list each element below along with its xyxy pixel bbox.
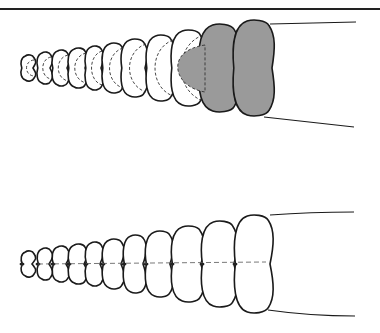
rattle-segment <box>121 39 147 97</box>
tail-outline-lower <box>264 117 354 127</box>
tail-outline-lower <box>268 310 355 316</box>
tail-outline-upper <box>270 22 356 24</box>
rattle-segment <box>21 55 36 81</box>
rattle-segment <box>233 20 274 116</box>
segment-notch <box>20 262 25 265</box>
rattle-segment <box>123 235 146 293</box>
rattle-segment <box>146 35 174 101</box>
rattle-segment <box>68 48 88 88</box>
rattle-illustration <box>0 0 380 333</box>
segment-notch <box>84 262 89 265</box>
rattle-segment <box>145 231 173 297</box>
tail-outline-upper <box>270 212 354 215</box>
rattle-segment <box>234 215 273 313</box>
segment-notch <box>233 262 238 265</box>
rattle-segment <box>201 221 237 307</box>
segment-notch <box>101 262 106 265</box>
rattle-segment <box>171 226 204 302</box>
top-rattle <box>21 20 356 127</box>
rattle-segment <box>85 46 104 90</box>
rattle-segment <box>102 239 124 289</box>
bottom-rattle <box>20 212 356 316</box>
